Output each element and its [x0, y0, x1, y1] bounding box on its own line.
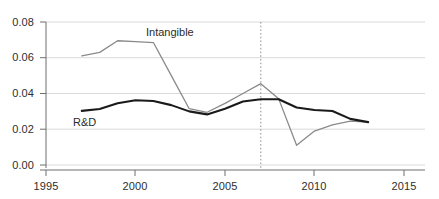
y-axis-tick-label-0: 0.00	[0, 160, 34, 171]
x-axis-tick-label-1: 2000	[115, 181, 155, 192]
y-axis-tick-label-4: 0.08	[0, 17, 34, 28]
x-axis-tick-label-0: 1995	[26, 181, 66, 192]
series-annotation-rnd: R&D	[73, 117, 96, 128]
x-axis-tick-label-3: 2010	[294, 181, 334, 192]
line-chart-plot	[0, 0, 439, 199]
chart-container: 0.00 0.02 0.04 0.06 0.08 1995 2000 2005 …	[0, 0, 439, 199]
x-axis-tick-label-4: 2015	[384, 181, 424, 192]
x-axis-tick-label-2: 2005	[205, 181, 245, 192]
y-axis-tick-label-2: 0.04	[0, 88, 34, 99]
y-axis-tick-label-3: 0.06	[0, 52, 34, 63]
gridlines	[46, 22, 425, 165]
y-axis-tick-label-1: 0.02	[0, 124, 34, 135]
series-annotation-intangible: Intangible	[146, 27, 194, 38]
